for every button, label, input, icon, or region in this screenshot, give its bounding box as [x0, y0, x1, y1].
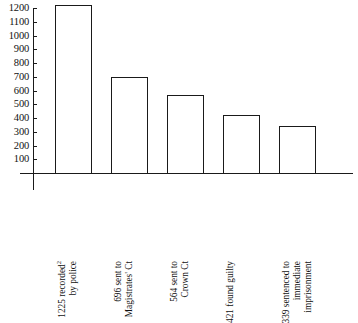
y-axis-tick-label: 100	[0, 152, 29, 165]
category-label-line: imprisonment	[303, 261, 314, 313]
y-axis-tick-label: 400	[0, 111, 29, 124]
category-label-line: Crown Ct	[180, 261, 191, 297]
category-label-line: immediate	[292, 261, 303, 300]
category-labels-layer: 1225 recorded2by police696 sent toMagist…	[0, 173, 358, 265]
y-axis-tick-label: 1100	[0, 15, 29, 28]
bar	[279, 126, 316, 173]
y-axis-tick-label: 600	[0, 84, 29, 97]
y-axis-tick-label: 300	[0, 125, 29, 138]
y-axis-tick-label: 800	[0, 56, 29, 69]
bars-layer	[33, 8, 351, 173]
category-label-line: 421 found guilty	[225, 261, 236, 323]
category-label-line: by police	[68, 261, 79, 295]
y-axis-tick-label: 1000	[0, 29, 29, 42]
category-label-line: 564 sent to	[169, 261, 180, 302]
y-axis-tick-label: 500	[0, 97, 29, 110]
bar	[55, 5, 92, 173]
y-axis-tick-label: 200	[0, 139, 29, 152]
y-axis-tick-label: 1200	[0, 1, 29, 14]
bar	[167, 95, 204, 173]
y-axis-tick-label: 900	[0, 42, 29, 55]
category-label-line: 1225 recorded2	[57, 261, 68, 318]
bar	[111, 77, 148, 173]
category-label-line: 696 sent to	[113, 261, 124, 302]
footnote-superscript: 2	[55, 261, 62, 264]
y-axis-tick-label: 700	[0, 70, 29, 83]
bar	[223, 115, 260, 173]
category-label-line: Magistrates' Ct	[124, 261, 135, 317]
category-label-line: 339 sentenced to	[281, 261, 292, 323]
